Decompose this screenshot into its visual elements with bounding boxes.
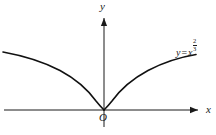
- exponent-denominator: 3: [193, 46, 197, 53]
- equation-exponent-fraction: 23: [193, 38, 197, 52]
- equation-variable: y: [176, 47, 180, 58]
- graph-figure: y x O y=x23: [0, 0, 216, 135]
- curve-left-branch: [3, 52, 104, 110]
- x-axis-label: x: [206, 104, 211, 115]
- y-axis-label: y: [100, 1, 105, 12]
- curve-right-branch: [104, 55, 196, 111]
- equation-equals-sign: =: [181, 47, 187, 58]
- curve-equation-label: y=x23: [176, 39, 197, 58]
- y-axis-arrow-icon: [101, 18, 107, 26]
- graph-canvas: [0, 0, 216, 135]
- x-axis-arrow-icon: [190, 107, 198, 113]
- origin-label: O: [99, 112, 107, 123]
